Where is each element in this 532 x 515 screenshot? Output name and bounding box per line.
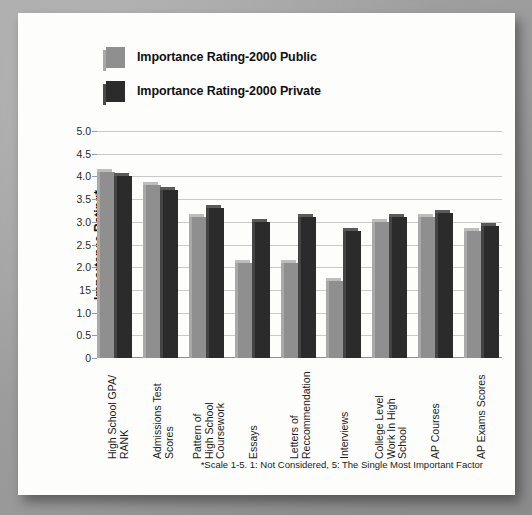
bar (467, 231, 482, 358)
x-axis-label-line: Work In High (385, 363, 397, 459)
plot-area: 5.04.54.03.53.02.52.0151.00.50 (97, 131, 502, 358)
bar-face (146, 185, 161, 358)
y-axis-tick-label: 0 (85, 352, 91, 364)
y-axis-tick-label: 2.0 (76, 261, 91, 273)
y-axis-tick-label: 0.5 (76, 329, 91, 341)
bar-group (146, 185, 178, 358)
bar-face (255, 222, 270, 358)
x-axis-label-text: Letters ofReccommendation (288, 363, 311, 459)
bar-face (375, 222, 390, 358)
bar (301, 217, 316, 358)
bar (438, 213, 453, 358)
bar-face (284, 263, 299, 358)
x-axis-label-text: High School GPA/RANK (106, 363, 129, 459)
x-axis-label-line: Coursework (214, 363, 226, 459)
x-axis-label-text: College LevelWork In HighSchool (373, 363, 408, 459)
x-axis-label: Essays (237, 363, 272, 463)
bar-group (284, 217, 316, 358)
bar (255, 222, 270, 358)
bar-face (438, 213, 453, 358)
x-axis-label-line: Interviews (339, 363, 351, 459)
y-axis-tick-label: 15 (79, 284, 91, 296)
x-axis-label-line: Essays (248, 363, 260, 459)
x-axis-label: College LevelWork In HighSchool (373, 363, 408, 463)
bar-group (467, 226, 499, 358)
bar-face (392, 217, 407, 358)
x-axis-label-text: Pattern ofHigh SchoolCoursework (191, 363, 226, 459)
bar (484, 226, 499, 358)
x-axis-label: Admissions TestScores (146, 363, 181, 463)
bar-group (375, 217, 407, 358)
x-axis-label-line: Scores (163, 363, 175, 459)
bar (146, 185, 161, 358)
bar (163, 190, 178, 358)
x-axis-labels: High School GPA/RANKAdmissions TestScore… (97, 363, 502, 463)
bar-face (163, 190, 178, 358)
x-axis-label-line: School (396, 363, 408, 459)
bar-group (100, 172, 132, 358)
bar (192, 217, 207, 358)
bar (117, 176, 132, 358)
x-axis-label-line: Reccommendation (300, 363, 312, 459)
legend-swatch-private-icon (106, 81, 125, 102)
chart-legend: Importance Rating-2000 Public Importance… (106, 43, 321, 111)
x-axis-label-line: Admissions Test (152, 363, 164, 459)
bar (346, 231, 361, 358)
x-axis-label-text: Essays (248, 363, 260, 459)
y-axis-tick-label: 3.5 (76, 193, 91, 205)
bar (392, 217, 407, 358)
bar-face (484, 226, 499, 358)
x-axis-label-line: RANK (118, 363, 130, 459)
y-axis-tick-label: 4.0 (76, 170, 91, 182)
x-axis-label-text: Interviews (339, 363, 351, 459)
legend-item-public: Importance Rating-2000 Public (106, 43, 321, 71)
x-axis-label: Letters ofReccommendation (282, 363, 317, 463)
x-axis-label-line: Pattern of (191, 363, 203, 459)
chart-card: Importance Rating-2000 Public Importance… (18, 13, 515, 495)
bar-face (117, 176, 132, 358)
legend-label-public: Importance Rating-2000 Public (137, 50, 317, 64)
bar-face (100, 172, 115, 358)
bar (238, 263, 253, 358)
bar (421, 217, 436, 358)
bar-face (192, 217, 207, 358)
x-axis-label: Pattern ofHigh SchoolCoursework (191, 363, 226, 463)
bar-face (329, 281, 344, 358)
y-axis-tick-mark (92, 358, 97, 359)
bar (209, 208, 224, 358)
x-axis-label: AP Exams Scores (464, 363, 499, 463)
x-axis-label-line: AP Courses (430, 363, 442, 459)
bar (329, 281, 344, 358)
legend-item-private: Importance Rating-2000 Private (106, 77, 321, 105)
bar-face (209, 208, 224, 358)
legend-label-private: Importance Rating-2000 Private (137, 84, 321, 98)
x-axis-label-line: AP Exams Scores (476, 363, 488, 459)
bar (100, 172, 115, 358)
x-axis-label: Interviews (328, 363, 363, 463)
bar-group (192, 208, 224, 358)
x-axis-label-line: High School GPA/ (106, 363, 118, 459)
bar-group (238, 222, 270, 358)
x-axis-label-line: Letters of (288, 363, 300, 459)
y-axis-tick-label: 5.0 (76, 125, 91, 137)
bar (284, 263, 299, 358)
bar-face (421, 217, 436, 358)
bar-group (329, 231, 361, 358)
bar-face (467, 231, 482, 358)
x-axis-label-text: AP Courses (430, 363, 442, 459)
legend-swatch-public-icon (106, 47, 125, 68)
x-axis-label-line: High School (203, 363, 215, 459)
y-axis-tick-label: 3.0 (76, 216, 91, 228)
bar-groups (97, 131, 502, 358)
x-axis-label-line: College Level (373, 363, 385, 459)
bar-face (238, 263, 253, 358)
y-axis-tick-label: 4.5 (76, 148, 91, 160)
bar-face (301, 217, 316, 358)
bar-face (346, 231, 361, 358)
bar-group (421, 213, 453, 358)
x-axis-label-text: Admissions TestScores (152, 363, 175, 459)
x-axis-label: AP Courses (419, 363, 454, 463)
x-axis-label-text: AP Exams Scores (476, 363, 488, 459)
y-axis-tick-label: 1.0 (76, 307, 91, 319)
chart-footnote: *Scale 1-5. 1: Not Considered, 5: The Si… (201, 459, 483, 470)
